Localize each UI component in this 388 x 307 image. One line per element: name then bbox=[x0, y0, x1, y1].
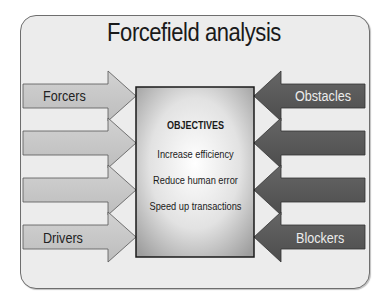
diagram-title: Forcefield analysis bbox=[23, 18, 364, 47]
right-arrow-label: Blockers bbox=[296, 230, 344, 246]
obstacle-arrow bbox=[254, 165, 365, 215]
objective-item: Speed up transactions bbox=[139, 200, 253, 212]
left-arrow-label: Forcers bbox=[43, 88, 86, 104]
objectives-heading: OBJECTIVES bbox=[143, 120, 248, 131]
left-arrow-label: Drivers bbox=[43, 230, 83, 246]
objective-item: Increase efficiency bbox=[139, 148, 253, 160]
right-arrow-label: Obstacles bbox=[295, 88, 351, 104]
objective-item: Reduce human error bbox=[139, 174, 253, 186]
obstacle-arrow bbox=[254, 118, 365, 168]
forcer-arrow bbox=[23, 118, 136, 168]
forcer-arrow bbox=[23, 165, 136, 215]
objectives-panel: OBJECTIVES Increase efficiency Reduce hu… bbox=[137, 88, 254, 257]
